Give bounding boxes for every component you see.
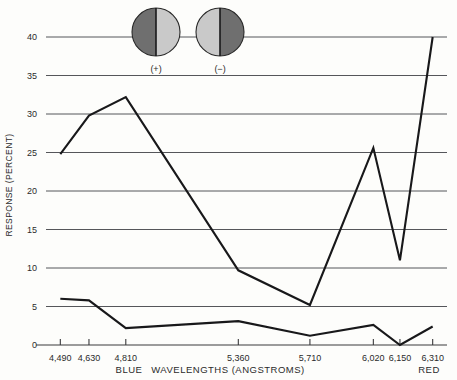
- x-axis-tick-label: 5,360: [227, 353, 250, 363]
- y-axis-tick-label: 25: [27, 148, 37, 158]
- y-axis-title: RESPONSE (PERCENT): [4, 133, 14, 236]
- legend-item-plus: (+): [132, 8, 180, 74]
- x-axis-tick-label: 6,310: [421, 353, 444, 363]
- legend: (+) (−): [132, 8, 244, 74]
- x-axis-tick-label: 6,020: [362, 353, 385, 363]
- series-line-plus: [60, 37, 432, 305]
- x-axis-tick-label: 4,810: [115, 353, 138, 363]
- legend-label-minus: (−): [214, 64, 225, 74]
- x-axis-tick-marks: [60, 339, 432, 345]
- y-axis-tick-label: 40: [27, 32, 37, 42]
- y-axis-tick-label: 15: [27, 225, 37, 235]
- chart-container: 0510152025303540 4,4904,6304,8105,3605,7…: [0, 0, 457, 380]
- x-axis-tick-label: 4,630: [78, 353, 101, 363]
- x-axis-tick-label: 6,150: [389, 353, 412, 363]
- y-axis-tick-label: 20: [27, 186, 37, 196]
- legend-label-plus: (+): [150, 64, 161, 74]
- y-axis-tick-label: 30: [27, 109, 37, 119]
- y-axis-tick-label: 10: [27, 263, 37, 273]
- x-axis-tick-label: 5,710: [299, 353, 322, 363]
- y-axis-tick-label: 5: [32, 302, 37, 312]
- x-axis-tick-label: 4,490: [49, 353, 72, 363]
- gridlines-group: [46, 37, 447, 307]
- x-axis-tick-labels: 4,4904,6304,8105,3605,7106,0206,1506,310: [49, 353, 444, 363]
- x-axis-blue-end-label: BLUE: [116, 364, 143, 375]
- y-axis-tick-label: 35: [27, 71, 37, 81]
- legend-item-minus: (−): [196, 8, 244, 74]
- series-line-minus: [60, 299, 432, 345]
- x-axis-red-end-label: RED: [418, 364, 440, 375]
- spectral-response-chart: 0510152025303540 4,4904,6304,8105,3605,7…: [0, 0, 457, 380]
- x-axis-title: WAVELENGTHS (ANGSTROMS): [151, 364, 304, 375]
- y-axis-tick-labels: 0510152025303540: [27, 32, 37, 350]
